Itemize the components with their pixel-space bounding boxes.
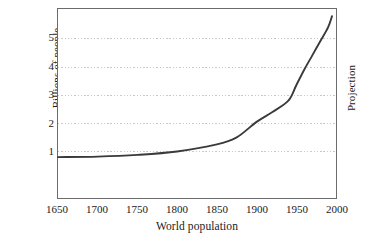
x-tick-label: 1750: [117, 203, 157, 215]
y-tick-label: 2: [40, 118, 54, 129]
world-population-chart: Billions of people 1 2 3 4 5 1650 1700 1…: [0, 0, 380, 246]
x-tick-label: 1650: [37, 203, 77, 215]
y-tick-label: 1: [40, 146, 54, 157]
x-tick-label: 1850: [197, 203, 237, 215]
x-axis-title: World population: [57, 220, 337, 232]
x-tick-label: 2000: [317, 203, 357, 215]
y-tick-label: 5: [40, 32, 54, 43]
x-tick-label: 1900: [237, 203, 277, 215]
y-tick-label: 4: [40, 61, 54, 72]
y-axis-tick-labels: 1 2 3 4 5: [40, 8, 54, 199]
x-tick-label: 1700: [77, 203, 117, 215]
population-curve-path: [58, 16, 332, 157]
plot-area: [57, 8, 337, 199]
y-tick-label: 3: [40, 89, 54, 100]
x-axis-tick-labels: 1650 1700 1750 1800 1850 1900 1950 2000: [57, 203, 337, 217]
projection-annotation: Projection: [345, 48, 357, 128]
population-curve: [58, 9, 336, 198]
x-tick-label: 1800: [157, 203, 197, 215]
x-tick-label: 1950: [277, 203, 317, 215]
